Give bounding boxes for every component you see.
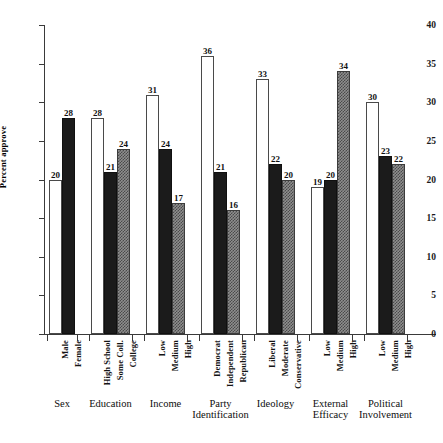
group-title: Sex bbox=[54, 398, 70, 409]
group-title-line: Efficacy bbox=[313, 409, 349, 420]
category-label: High bbox=[183, 340, 193, 358]
group-title: Income bbox=[150, 398, 182, 409]
x-axis-tick bbox=[309, 335, 310, 341]
category-label: Low bbox=[322, 340, 332, 356]
bar-value-label: 28 bbox=[64, 108, 73, 118]
y-axis-title: Percent approve bbox=[0, 126, 8, 188]
x-axis-tick bbox=[89, 335, 90, 341]
category-label: College bbox=[128, 340, 138, 368]
bar-value-label: 28 bbox=[93, 108, 102, 118]
category-label: Some Coll. bbox=[115, 340, 125, 380]
bar: 23 bbox=[379, 156, 392, 334]
bar: 16 bbox=[227, 210, 240, 334]
bar: 21 bbox=[214, 172, 227, 334]
category-label: High bbox=[348, 340, 358, 358]
bar: 30 bbox=[366, 102, 379, 334]
y-axis-tick-label: 0 bbox=[431, 329, 436, 339]
group-title: Ideology bbox=[257, 398, 294, 409]
y-axis-tick bbox=[39, 141, 44, 142]
group-title-line: Political bbox=[368, 398, 403, 409]
y-axis-tick bbox=[39, 102, 44, 103]
x-axis-tick bbox=[144, 335, 145, 341]
bar-value-label: 22 bbox=[271, 154, 280, 164]
x-axis-tick bbox=[254, 335, 255, 341]
x-axis-tick bbox=[77, 335, 78, 341]
group-title: PartyIdentification bbox=[192, 398, 249, 420]
bar-value-label: 30 bbox=[368, 92, 377, 102]
group-title-line: External bbox=[313, 398, 349, 409]
category-label: Independent bbox=[225, 340, 235, 387]
y-axis-tick-label: 10 bbox=[427, 252, 437, 262]
category-label: Conservative bbox=[293, 340, 303, 389]
bar: 36 bbox=[201, 56, 214, 334]
bar: 22 bbox=[392, 164, 405, 334]
group-title-line: Ideology bbox=[257, 398, 294, 409]
bar: 22 bbox=[269, 164, 282, 334]
bar-value-label: 20 bbox=[326, 170, 335, 180]
bar-value-label: 22 bbox=[394, 154, 403, 164]
x-axis-line bbox=[44, 334, 436, 335]
category-label: Democrat bbox=[212, 340, 222, 377]
category-label: Medium bbox=[390, 340, 400, 371]
bar-chart: Percent approve 202828212431241736211633… bbox=[0, 0, 443, 443]
category-label: Low bbox=[157, 340, 167, 356]
y-axis-tick-label: 5 bbox=[431, 290, 436, 300]
group-title-line: Education bbox=[89, 398, 132, 409]
x-axis-tick bbox=[364, 335, 365, 341]
category-label: Low bbox=[377, 340, 387, 356]
group-title: PoliticalInvolvement bbox=[359, 398, 412, 420]
plot-area: 2028282124312417362116332220192034302322 bbox=[44, 25, 434, 334]
y-axis-tick bbox=[39, 64, 44, 65]
bar: 20 bbox=[324, 180, 337, 335]
x-axis-tick bbox=[407, 335, 408, 341]
x-axis-tick bbox=[242, 335, 243, 341]
category-label: Moderate bbox=[280, 340, 290, 376]
group-title-line: Involvement bbox=[359, 409, 412, 420]
bar: 21 bbox=[104, 172, 117, 334]
y-axis-tick bbox=[39, 218, 44, 219]
bar-value-label: 19 bbox=[313, 177, 322, 187]
group-title-line: Sex bbox=[54, 398, 70, 409]
bar: 34 bbox=[337, 71, 350, 334]
group-title-line: Identification bbox=[192, 409, 249, 420]
y-axis-tick-label: 20 bbox=[427, 175, 437, 185]
bar-value-label: 36 bbox=[203, 46, 212, 56]
bar-value-label: 24 bbox=[161, 139, 170, 149]
bar: 17 bbox=[172, 203, 185, 334]
bar: 28 bbox=[62, 118, 75, 334]
y-axis-tick-label: 25 bbox=[427, 136, 437, 146]
group-title-line: Party bbox=[209, 398, 231, 409]
bar-value-label: 23 bbox=[381, 146, 390, 156]
bar: 31 bbox=[146, 95, 159, 334]
category-label: High bbox=[403, 340, 413, 358]
bar-value-label: 34 bbox=[339, 61, 348, 71]
group-title-line: Income bbox=[150, 398, 182, 409]
y-axis-tick bbox=[39, 334, 44, 335]
bar: 28 bbox=[91, 118, 104, 334]
bar-value-label: 33 bbox=[258, 69, 267, 79]
category-label: Liberal bbox=[267, 340, 277, 368]
category-label: Male bbox=[60, 340, 70, 359]
group-title: Education bbox=[89, 398, 132, 409]
y-axis-tick bbox=[39, 257, 44, 258]
x-axis-tick bbox=[352, 335, 353, 341]
category-label: Female bbox=[73, 340, 83, 367]
bar: 20 bbox=[282, 180, 295, 335]
y-axis-tick-label: 15 bbox=[427, 213, 437, 223]
y-axis-tick bbox=[39, 25, 44, 26]
category-label: Medium bbox=[335, 340, 345, 371]
y-axis-tick bbox=[39, 180, 44, 181]
bar: 20 bbox=[49, 180, 62, 335]
x-axis-tick bbox=[199, 335, 200, 341]
y-axis-tick-label: 30 bbox=[427, 97, 437, 107]
group-title: ExternalEfficacy bbox=[313, 398, 349, 420]
x-axis-tick bbox=[47, 335, 48, 341]
bar-value-label: 17 bbox=[174, 193, 183, 203]
bar-value-label: 31 bbox=[148, 85, 157, 95]
bar: 33 bbox=[256, 79, 269, 334]
bar: 24 bbox=[159, 149, 172, 334]
bar-value-label: 20 bbox=[51, 170, 60, 180]
bar-value-label: 20 bbox=[284, 170, 293, 180]
x-axis-tick bbox=[187, 335, 188, 341]
category-label: High School bbox=[102, 340, 112, 385]
